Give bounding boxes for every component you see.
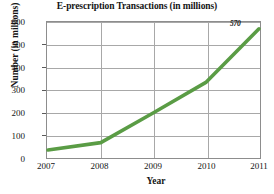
x-tick-label-2011: 2011 <box>239 162 274 171</box>
y-tick-mark-100 <box>42 135 46 136</box>
x-tick-label-2007: 2007 <box>26 162 66 171</box>
data-point-annotation-2011: 570 <box>230 19 241 28</box>
y-tick-label-200: 200 <box>0 109 25 118</box>
chart-figure: E-prescription Transactions (in millions… <box>0 0 274 194</box>
data-series-line <box>47 22 260 158</box>
x-tick-label-2010: 2010 <box>187 162 227 171</box>
y-tick-label-600: 600 <box>0 18 25 27</box>
y-tick-label-300: 300 <box>0 86 25 95</box>
y-tick-label-0: 0 <box>0 155 25 164</box>
plot-area <box>46 21 261 159</box>
x-axis-title: Year <box>46 176 266 186</box>
y-tick-mark-500 <box>42 44 46 45</box>
y-tick-label-500: 500 <box>0 41 25 50</box>
y-tick-label-100: 100 <box>0 132 25 141</box>
x-tick-label-2009: 2009 <box>133 162 173 171</box>
y-tick-mark-400 <box>42 67 46 68</box>
chart-title: E-prescription Transactions (in millions… <box>0 1 274 11</box>
y-tick-mark-300 <box>42 90 46 91</box>
y-tick-mark-200 <box>42 113 46 114</box>
y-tick-label-400: 400 <box>0 64 25 73</box>
x-tick-label-2008: 2008 <box>80 162 120 171</box>
